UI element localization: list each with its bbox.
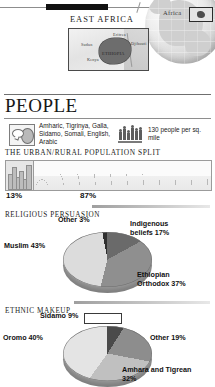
language-icon xyxy=(9,124,35,146)
speech-bubble-icon xyxy=(12,129,24,138)
sidamo-leader-box xyxy=(84,313,122,324)
rural-percentage: 87% xyxy=(80,191,96,200)
ethnic-label-amhara-tigrean: Amhara and Tigrean 32% xyxy=(122,366,202,383)
religion-section-header: RELIGIOUS PERSUASION xyxy=(5,203,100,213)
globe-illustration: Africa xyxy=(145,0,215,64)
religion-section-bar xyxy=(92,205,210,208)
languages-text: Amharic, Tigrinya, Galla, Sidamo, Somali… xyxy=(39,122,111,147)
rural-hill-outline xyxy=(34,174,211,185)
globe-highlight-box xyxy=(189,7,213,22)
population-density-text: 130 people per sq. mile xyxy=(148,126,210,142)
ethnic-label-other: Other 19% xyxy=(150,334,186,343)
density-icon-base xyxy=(118,141,142,143)
minimap-label-sudan: Sudan xyxy=(81,42,92,47)
religion-label-other: Other 3% xyxy=(58,216,90,225)
minimap-label-kenya: Kenya xyxy=(87,57,99,62)
people-section-bottom-rule xyxy=(4,118,211,119)
urban-percentage: 13% xyxy=(6,191,22,200)
urban-rural-title: THE URBAN/RURAL POPULATION SPLIT xyxy=(5,148,161,157)
ethnic-label-oromo: Oromo 40% xyxy=(3,334,43,343)
minimap-label-eritrea: Eritrea xyxy=(113,32,126,37)
minimap-label-ethiopia: ETHIOPIA xyxy=(102,51,125,56)
urban-cityscape xyxy=(6,161,34,190)
region-header: Africa EAST AFRICA Sudan Eritrea Djibout… xyxy=(0,0,215,88)
region-title: EAST AFRICA xyxy=(70,14,134,24)
religion-label-orthodox: Ethiopian Orthodox 37% xyxy=(137,271,197,288)
urban-rural-chart xyxy=(5,160,212,191)
ethnic-section-header: ETHNIC MAKEUP xyxy=(5,299,71,309)
east-africa-minimap: Sudan Eritrea Djibouti Kenya ETHIOPIA xyxy=(68,28,149,71)
population-density-icon xyxy=(118,124,142,143)
minimap-label-djibouti: Djibouti xyxy=(131,41,147,46)
globe-continent-label: Africa xyxy=(163,9,181,16)
religion-label-indigenous: Indigenous beliefs 17% xyxy=(130,220,186,237)
page-title: PEOPLE xyxy=(5,96,78,116)
ethnic-pie-chart: Sidamo 9% Oromo 40% Other 19% Amhara and… xyxy=(0,310,215,387)
religion-label-muslim: Muslim 43% xyxy=(4,242,45,251)
religion-pie-chart: Other 3% Indigenous beliefs 17% Muslim 4… xyxy=(0,216,215,298)
rural-landscape xyxy=(34,161,211,190)
ethnic-section-bar xyxy=(74,301,210,304)
ethnic-label-sidamo: Sidamo 9% xyxy=(40,312,78,321)
